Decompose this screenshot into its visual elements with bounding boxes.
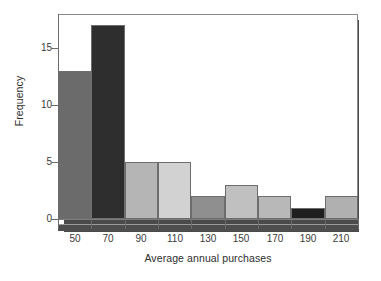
x-axis-tick (191, 219, 192, 229)
y-axis-tick-label: 0 (26, 214, 52, 224)
x-axis-tick-label: 210 (321, 233, 361, 244)
x-axis-tick (58, 219, 59, 229)
histogram-bar (158, 162, 191, 219)
y-axis-tick (51, 219, 58, 220)
y-axis-tick-label: 10 (26, 100, 52, 110)
histogram-bar (191, 196, 224, 219)
y-axis-tick (51, 162, 58, 163)
x-axis-tick (358, 219, 359, 229)
y-axis-title: Frequency (13, 59, 25, 143)
histogram-bar (291, 208, 324, 219)
x-axis-tick (125, 219, 126, 229)
y-axis-tick-label: 15 (26, 43, 52, 53)
x-axis-tick (325, 219, 326, 229)
histogram-bar (325, 196, 358, 219)
x-axis-tick (258, 219, 259, 229)
x-axis-title: Average annual purchases (58, 252, 358, 264)
y-axis-tick (51, 105, 58, 106)
histogram-bar (258, 196, 291, 219)
x-axis-tick (91, 219, 92, 229)
bars-layer (58, 14, 358, 219)
x-axis-tick (225, 219, 226, 229)
y-axis-tick-label: 5 (26, 157, 52, 167)
histogram-bar (125, 162, 158, 219)
x-axis-shadow-band (58, 224, 358, 231)
x-axis-baseline (58, 219, 358, 220)
x-axis-tick (158, 219, 159, 229)
histogram-bar (58, 71, 91, 219)
y-axis-tick (51, 48, 58, 49)
histogram-figure: 051015 Frequency Average annual purchase… (0, 0, 381, 281)
histogram-bar (225, 185, 258, 219)
histogram-bar (91, 25, 124, 219)
x-axis-tick (291, 219, 292, 229)
y-axis-line (58, 14, 59, 220)
